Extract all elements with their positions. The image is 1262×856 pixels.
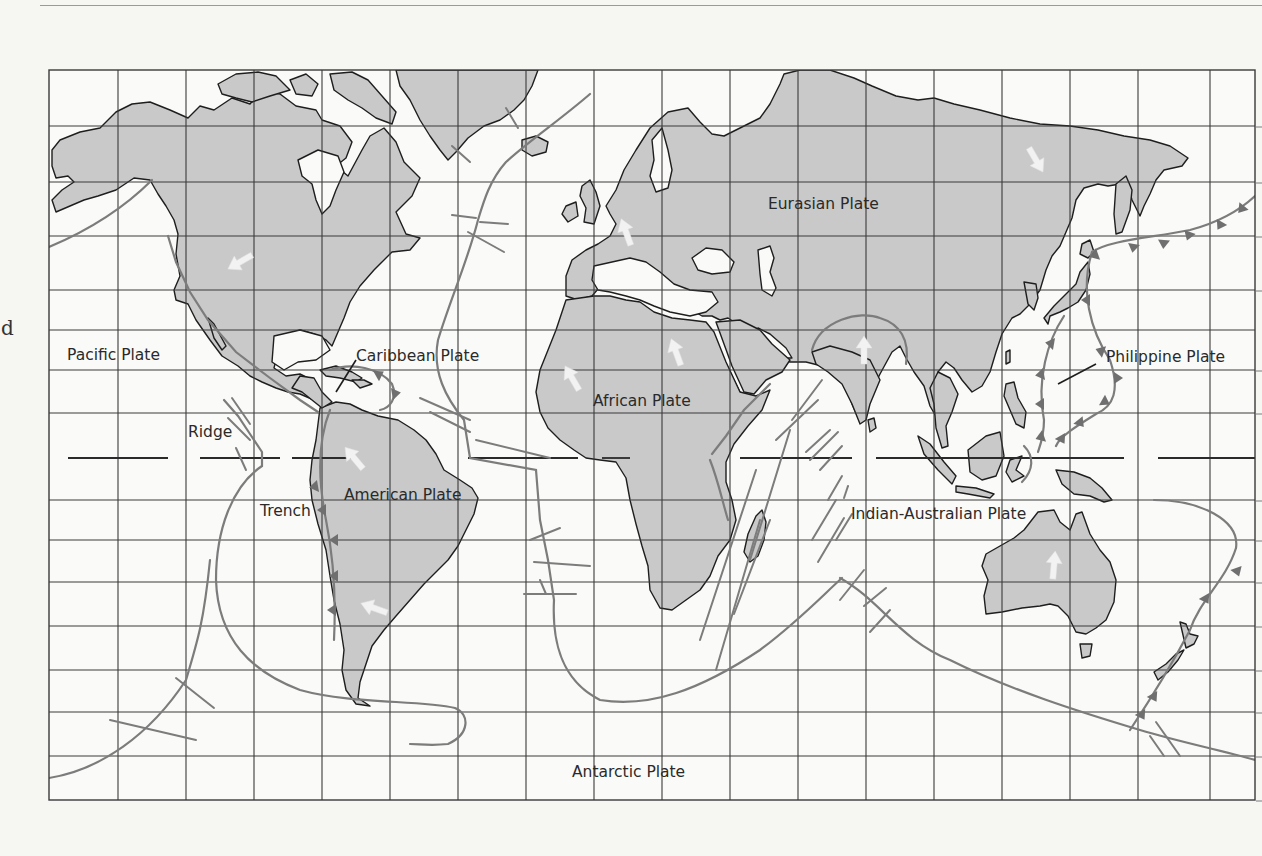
landmass-tasmania: [1080, 644, 1092, 658]
binding-mark: [1256, 670, 1262, 672]
plate-label-philippine: Philippine Plate: [1106, 348, 1225, 366]
plate-label-pacific: Pacific Plate: [67, 346, 160, 364]
feature-label-ridge: Ridge: [188, 423, 232, 441]
landmass-taiwan: [1006, 350, 1010, 364]
binding-mark: [1256, 126, 1262, 128]
binding-mark: [1256, 500, 1262, 502]
binding-mark: [1256, 413, 1262, 415]
binding-mark: [1256, 182, 1262, 184]
binding-mark: [1256, 236, 1262, 238]
plate-label-indian-australian: Indian-Australian Plate: [851, 505, 1026, 523]
binding-mark: [1256, 290, 1262, 292]
binding-mark: [1256, 756, 1262, 758]
binding-mark: [1256, 800, 1262, 802]
tectonic-plate-map: Eurasian PlatePacific PlateCaribbean Pla…: [0, 0, 1262, 856]
plate-label-african: African Plate: [593, 392, 691, 410]
binding-mark: [1256, 712, 1262, 714]
feature-label-trench: Trench: [259, 502, 311, 520]
plate-label-antarctic: Antarctic Plate: [572, 763, 685, 781]
plate-label-caribbean: Caribbean Plate: [356, 347, 479, 365]
binding-mark: [1256, 540, 1262, 542]
binding-mark: [1256, 626, 1262, 628]
plate-label-eurasian: Eurasian Plate: [768, 195, 879, 213]
binding-mark: [1256, 582, 1262, 584]
plate-label-american: American Plate: [344, 486, 461, 504]
binding-mark: [1256, 370, 1262, 372]
